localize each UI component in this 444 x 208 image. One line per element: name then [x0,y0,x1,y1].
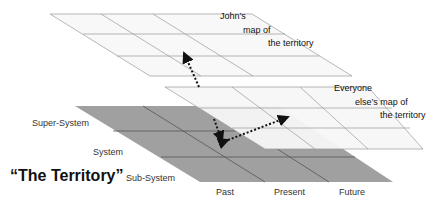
col-label-future: Future [339,187,365,197]
col-label-present: Present [274,187,305,197]
johns-map-label-line-2: map of [243,25,271,35]
everyone-map-label-line-3: the territory [380,110,426,120]
row-label-sub-system: Sub-System [126,173,175,183]
row-label-super-system: Super-System [32,118,89,128]
everyone-map-label-line-1: Everyone [334,83,372,93]
johns-map-label-line-1: John’s [220,11,246,21]
everyone-map-label-line-2: else’s map of [355,97,408,107]
territory-title: “The Territory” [10,167,124,185]
row-label-system: System [93,147,123,157]
col-label-past: Past [216,187,234,197]
johns-map-label-line-3: the territory [268,38,314,48]
